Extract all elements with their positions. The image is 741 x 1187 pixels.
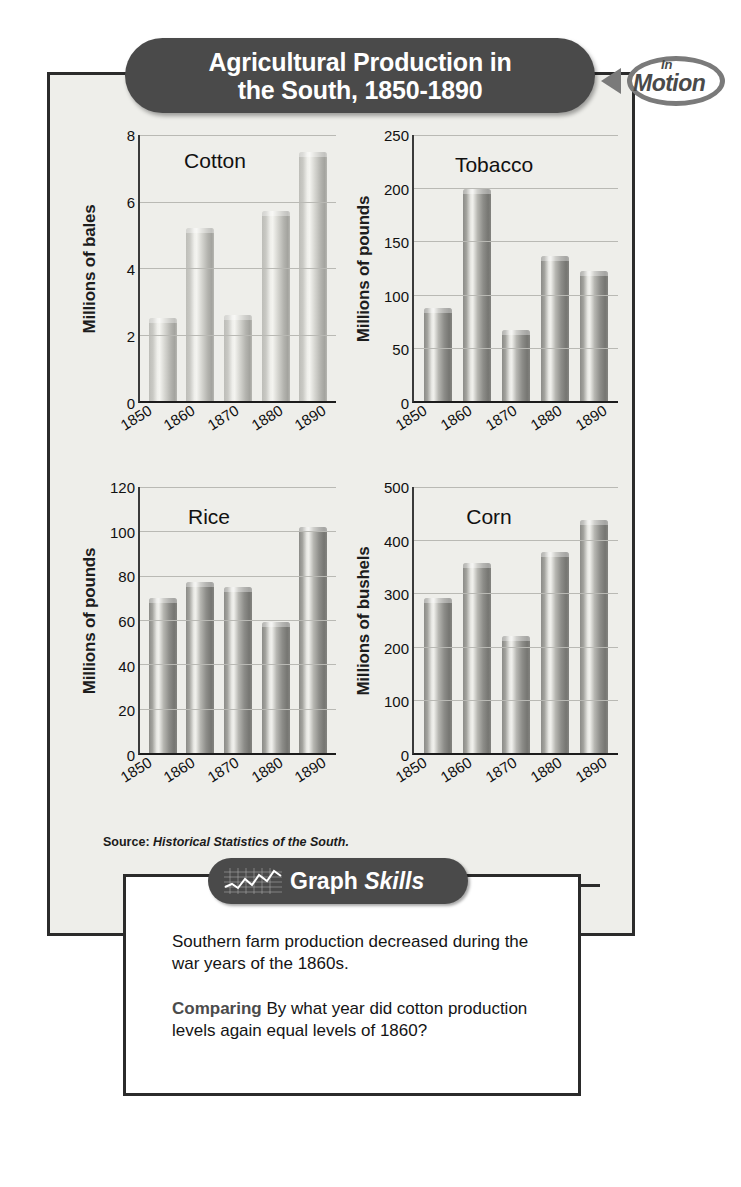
plot-tobacco	[412, 135, 618, 403]
x-tick-rice-1870: 1870	[204, 753, 241, 785]
line-chart-icon	[224, 868, 282, 894]
x-tick-slot: 1870	[478, 403, 523, 459]
x-tick-slot: 1850	[114, 755, 158, 811]
y-tick-labels-cotton: 02468	[104, 135, 138, 403]
y-tick-corn-300: 300	[384, 586, 409, 603]
gridline	[414, 540, 618, 541]
plot-rice	[138, 487, 336, 755]
x-tick-slot: 1890	[288, 403, 332, 459]
bar-corn-1890	[580, 520, 608, 753]
gridline	[140, 709, 336, 710]
y-tick-labels-rice: 020406080100120	[104, 487, 138, 755]
bar-tobacco-1890	[580, 271, 608, 401]
gridline	[414, 295, 618, 296]
x-tick-labels-tobacco: 18501860187018801890	[384, 403, 618, 459]
bar-cotton-1880	[262, 211, 290, 401]
bar-rice-1850	[149, 598, 177, 753]
x-tick-corn-1850: 1850	[392, 753, 429, 785]
bar-slot	[418, 135, 457, 401]
y-tick-labels-corn: 0100200300400500	[378, 487, 412, 755]
x-tick-slot: 1850	[388, 403, 433, 459]
x-tick-slot: 1880	[524, 755, 569, 811]
plot-area-rice: 020406080100120	[104, 487, 336, 755]
gridline	[414, 487, 618, 488]
question-paragraph: Southern farm production decreased durin…	[172, 931, 552, 976]
x-tick-tobacco-1850: 1850	[392, 401, 429, 433]
question-prompt-label: Comparing	[172, 999, 262, 1018]
plot-area-tobacco: 050100150200250	[378, 135, 618, 403]
chart-cotton: Millions of bales Cotton 02468 185018601…	[76, 135, 336, 465]
y-tick-cotton-8: 8	[127, 127, 135, 144]
graph-skills-banner: Graph Skills	[208, 858, 468, 904]
bar-cotton-1870	[224, 315, 252, 401]
y-axis-title-cotton: Millions of bales	[76, 135, 104, 403]
in-motion-badge[interactable]: In Motion	[601, 48, 727, 118]
gridline	[414, 135, 618, 136]
gridline	[140, 135, 336, 136]
gridline	[140, 202, 336, 203]
y-tick-tobacco-200: 200	[384, 180, 409, 197]
y-tick-corn-100: 100	[384, 693, 409, 710]
bar-slot	[457, 135, 496, 401]
bar-slot	[575, 135, 614, 401]
x-tick-slot: 1870	[478, 755, 523, 811]
figure-title-text: Agricultural Production in the South, 18…	[192, 48, 527, 104]
gridline	[414, 348, 618, 349]
y-tick-labels-tobacco: 050100150200250	[378, 135, 412, 403]
graph-skills-word-graph: Graph	[290, 868, 358, 894]
y-tick-rice-80: 80	[118, 568, 135, 585]
y-axis-title-label-cotton: Millions of bales	[80, 205, 100, 334]
y-tick-corn-400: 400	[384, 532, 409, 549]
y-tick-corn-500: 500	[384, 479, 409, 496]
x-tick-rice-1850: 1850	[117, 753, 154, 785]
chart-panel: Millions of bales Cotton 02468 185018601…	[47, 72, 635, 936]
chart-rice: Millions of pounds Rice 020406080100120 …	[76, 487, 336, 817]
figure-root: Millions of bales Cotton 02468 185018601…	[0, 0, 741, 1187]
y-tick-rice-20: 20	[118, 702, 135, 719]
bars-tobacco	[414, 135, 618, 401]
bar-tobacco-1870	[502, 330, 530, 401]
plot-corn	[412, 487, 618, 755]
x-tick-slot: 1860	[433, 403, 478, 459]
y-tick-tobacco-100: 100	[384, 287, 409, 304]
bar-rice-1880	[262, 622, 290, 753]
x-tick-corn-1890: 1890	[573, 753, 610, 785]
x-tick-slot: 1880	[524, 403, 569, 459]
x-tick-labels-rice: 18501860187018801890	[110, 755, 336, 811]
y-axis-title-tobacco: Millions of pounds	[350, 135, 378, 403]
x-tick-cotton-1850: 1850	[117, 401, 154, 433]
gridline	[414, 593, 618, 594]
bar-tobacco-1880	[541, 256, 569, 401]
y-axis-title-label-rice: Millions of pounds	[80, 548, 100, 695]
y-axis-title-corn: Millions of bushels	[350, 487, 378, 755]
chart-tobacco: Millions of pounds Tobacco 0501001502002…	[350, 135, 618, 465]
y-axis-title-label-tobacco: Millions of pounds	[354, 196, 374, 343]
figure-title-pill: Agricultural Production in the South, 18…	[125, 38, 595, 113]
gridline	[140, 335, 336, 336]
x-tick-tobacco-1890: 1890	[573, 401, 610, 433]
gridline	[140, 531, 336, 532]
bar-corn-1850	[424, 598, 452, 753]
gridline	[140, 576, 336, 577]
bar-corn-1870	[502, 636, 530, 753]
x-tick-slot: 1890	[288, 755, 332, 811]
bar-corn-1880	[541, 552, 569, 753]
plot-cotton	[138, 135, 336, 403]
x-tick-slot: 1890	[569, 403, 614, 459]
in-motion-large-word: Motion	[633, 70, 705, 97]
x-tick-slot: 1850	[388, 755, 433, 811]
bar-cotton-1850	[149, 318, 177, 401]
x-tick-slot: 1870	[201, 403, 245, 459]
source-note: Source: Historical Statistics of the Sou…	[103, 835, 349, 849]
bars-corn	[414, 487, 618, 753]
bar-slot	[496, 487, 535, 753]
y-tick-rice-120: 120	[110, 479, 135, 496]
x-tick-slot: 1870	[201, 755, 245, 811]
y-tick-rice-60: 60	[118, 613, 135, 630]
bar-slot	[536, 487, 575, 753]
x-tick-slot: 1880	[245, 403, 289, 459]
bar-corn-1860	[463, 563, 491, 753]
bar-slot	[536, 135, 575, 401]
graph-skills-word-skills: Skills	[364, 868, 424, 894]
question-box-content: Southern farm production decreased durin…	[172, 931, 552, 1043]
